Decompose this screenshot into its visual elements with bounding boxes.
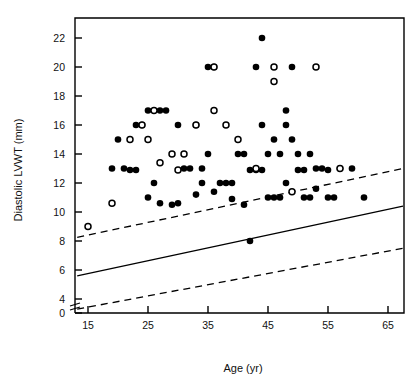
data-point-open [253,166,259,172]
data-point-open [127,137,133,143]
data-point-filled [205,151,212,158]
scatter-plot: 222018161412108640 152535455565 Diastoli… [0,0,420,381]
data-point-filled [217,180,224,187]
data-point-filled [283,107,290,114]
data-point-filled [241,151,248,158]
data-point-filled [313,186,320,193]
data-point-open [235,137,241,143]
data-point-filled [199,180,206,187]
data-point-filled [253,64,260,71]
data-point-open [109,200,115,206]
data-point-filled [241,201,248,208]
data-point-filled [259,122,266,129]
x-tick-label: 55 [322,319,334,331]
data-point-filled [271,194,278,201]
data-point-filled [349,165,356,172]
chart-figure: 222018161412108640 152535455565 Diastoli… [0,0,420,381]
data-point-open [271,79,277,85]
data-point-filled [325,194,332,201]
data-point-filled [175,122,182,129]
data-point-filled [163,107,170,114]
data-point-filled [229,196,236,203]
data-point-filled [259,167,266,174]
data-point-filled [289,64,296,71]
data-point-filled [307,151,314,158]
data-point-filled [265,151,272,158]
data-point-filled [295,167,302,174]
data-point-filled [175,200,182,207]
x-tick-label: 35 [202,319,214,331]
data-point-filled [229,180,236,187]
data-point-filled [265,194,272,201]
data-point-filled [295,151,302,158]
data-point-filled [247,238,254,245]
data-point-filled [361,194,368,201]
data-point-filled [301,194,308,201]
data-point-filled [193,191,200,198]
data-point-open [157,160,163,166]
data-point-filled [301,167,308,174]
y-tick-label: 6 [59,264,65,276]
data-point-filled [277,194,284,201]
x-tick-label: 65 [382,319,394,331]
data-point-filled [199,165,206,172]
data-point-open [223,122,229,128]
data-point-open [313,64,319,70]
y-axis-label: Diastolic LVWT (mm) [12,119,24,222]
data-point-open [193,122,199,128]
y-tick-label: 0 [59,307,65,319]
y-tick-label: 14 [53,148,65,160]
y-tick-label: 12 [53,177,65,189]
data-point-filled [157,200,164,207]
y-tick-label: 4 [59,293,65,305]
data-point-filled [169,201,176,208]
data-point-filled [313,165,320,172]
data-point-filled [121,165,128,172]
data-point-open [175,167,181,173]
data-point-filled [247,167,254,174]
y-tick-label: 10 [53,206,65,218]
data-point-filled [319,165,326,172]
x-tick-label: 15 [82,319,94,331]
data-point-filled [325,167,332,174]
data-point-open [211,108,217,114]
data-point-filled [235,151,242,158]
y-tick-label: 20 [53,61,65,73]
data-point-filled [109,165,116,172]
data-point-filled [127,167,134,174]
data-point-filled [223,180,230,187]
data-point-filled [307,194,314,201]
data-point-open [181,151,187,157]
data-point-open [289,189,295,195]
data-point-filled [259,35,266,42]
data-point-open [337,166,343,172]
data-point-filled [283,122,290,129]
x-axis-label: Age (yr) [223,362,262,374]
y-tick-label: 22 [53,32,65,44]
data-point-filled [289,136,296,143]
data-point-filled [271,136,278,143]
y-tick-label: 16 [53,119,65,131]
data-point-filled [133,167,140,174]
data-point-filled [181,165,188,172]
data-point-open [145,137,151,143]
data-point-open [139,122,145,128]
y-tick-label: 18 [53,90,65,102]
data-point-filled [187,165,194,172]
data-point-filled [211,188,218,195]
data-point-filled [283,180,290,187]
data-point-filled [145,194,152,201]
y-tick-label: 8 [59,235,65,247]
data-point-open [85,224,91,230]
data-point-open [271,64,277,70]
x-tick-label: 25 [142,319,154,331]
data-point-filled [151,180,158,187]
data-point-open [169,151,175,157]
data-point-filled [331,194,338,201]
data-point-filled [277,151,284,158]
data-point-open [211,64,217,70]
x-tick-label: 45 [262,319,274,331]
data-point-filled [115,136,122,143]
data-point-open [151,108,157,114]
